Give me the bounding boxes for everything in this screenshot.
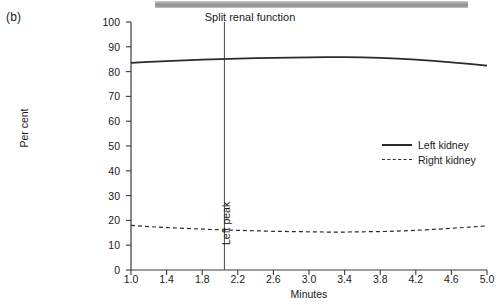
legend-label: Right kidney: [418, 154, 476, 166]
x-tick-label: 2.2: [221, 274, 255, 285]
y-tick-label: 20: [92, 215, 120, 226]
x-tick-label: 3.8: [363, 274, 397, 285]
y-tick-label: 70: [92, 91, 120, 102]
x-tick-label: 2.6: [256, 274, 290, 285]
legend-swatch-dashed-icon: [382, 155, 412, 165]
y-tick-label: 100: [92, 17, 120, 28]
y-tick-label: 50: [92, 141, 120, 152]
x-tick-label: 1.8: [185, 274, 219, 285]
x-tick-label: 1.0: [114, 274, 148, 285]
y-tick-label: 60: [92, 116, 120, 127]
x-tick-label: 4.6: [434, 274, 468, 285]
series-line-left-kidney: [131, 57, 487, 65]
x-tick-label: 3.0: [292, 274, 326, 285]
y-tick-label: 10: [92, 240, 120, 251]
series-line-right-kidney: [131, 225, 487, 232]
legend-swatch-solid-icon: [382, 140, 412, 150]
legend-item-left-kidney: Left kidney: [382, 137, 476, 152]
y-tick-label: 80: [92, 67, 120, 78]
y-tick-label: 90: [92, 42, 120, 53]
left-peak-annotation: Left peak: [220, 202, 232, 245]
x-tick-label: 5.0: [470, 274, 500, 285]
legend-item-right-kidney: Right kidney: [382, 152, 476, 167]
figure-panel: (b) Split renal function Per cent Minute…: [0, 0, 500, 305]
x-tick-label: 4.2: [399, 274, 433, 285]
y-tick-label: 40: [92, 166, 120, 177]
legend-label: Left kidney: [418, 139, 469, 151]
x-tick-label: 3.4: [328, 274, 362, 285]
y-tick-label: 30: [92, 191, 120, 202]
chart-legend: Left kidney Right kidney: [382, 137, 476, 167]
y-axis-ticks: [126, 22, 131, 270]
x-tick-label: 1.4: [150, 274, 184, 285]
